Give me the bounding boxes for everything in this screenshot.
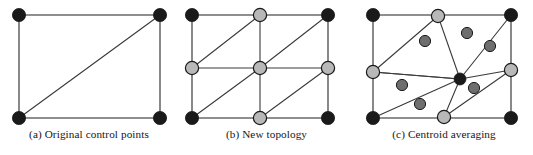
diagram-panel-c <box>355 0 533 128</box>
panel-new-topology: (b) New topology <box>178 0 355 155</box>
averaged-center <box>454 73 466 85</box>
corner-top-left <box>366 8 379 21</box>
centroid-dot-5 <box>414 98 425 109</box>
centroid-dot-1 <box>419 35 430 46</box>
edge-midpoint-top <box>253 8 266 21</box>
edge-midpoint-right <box>321 61 334 74</box>
corner-top-left <box>185 8 198 21</box>
edge-point-bottom <box>437 110 450 123</box>
corner-bottom-right <box>504 111 517 124</box>
centroid-dot-4 <box>396 79 407 90</box>
corner-top-right <box>504 8 517 21</box>
edge-point-left <box>366 65 379 78</box>
edge-point-top <box>431 9 444 22</box>
svg-panel-b <box>178 0 355 128</box>
panel-c-edges <box>373 15 511 118</box>
edge-center-to-top <box>438 16 460 79</box>
edge-diagonal <box>19 15 160 118</box>
caption-panel-c: (c) Centroid averaging <box>392 128 495 141</box>
panel-a-edges <box>19 15 160 118</box>
diagram-panel-a <box>0 0 178 128</box>
corner-bottom-left <box>185 111 198 124</box>
corner-bottom-left <box>12 111 25 124</box>
corner-top-left <box>12 8 25 21</box>
centroid-dot-6 <box>468 82 479 93</box>
centroid-dot-3 <box>484 40 495 51</box>
edge-center-to-right <box>460 70 511 79</box>
caption-panel-b: (b) New topology <box>226 128 307 141</box>
figure-mesh-centroid-averaging: (a) Original control points (b) New topo… <box>0 0 533 155</box>
svg-panel-a <box>0 0 178 128</box>
edge-diagonal-bottom-right <box>260 68 328 118</box>
edge-point-right <box>504 63 517 76</box>
corner-bottom-right <box>153 111 166 124</box>
face-center <box>253 61 266 74</box>
corner-top-right <box>153 8 166 21</box>
edge-midpoint-bottom <box>253 111 266 124</box>
panel-centroid-averaging: (c) Centroid averaging <box>355 0 533 155</box>
edge-midpoint-left <box>185 61 198 74</box>
edge-center-to-corner-top-left <box>373 72 460 79</box>
corner-bottom-right <box>321 111 334 124</box>
svg-panel-c <box>355 0 533 128</box>
caption-panel-a: (a) Original control points <box>29 128 149 141</box>
edge-diagonal-bottom-left <box>192 68 260 118</box>
corner-top-right <box>321 8 334 21</box>
edge-diagonal-top-right <box>260 15 328 68</box>
corner-bottom-left <box>366 111 379 124</box>
centroid-dot-2 <box>461 27 472 38</box>
edge-diagonal-top-left <box>192 15 260 68</box>
panel-original-control-points: (a) Original control points <box>0 0 178 155</box>
diagram-panel-b <box>178 0 355 128</box>
